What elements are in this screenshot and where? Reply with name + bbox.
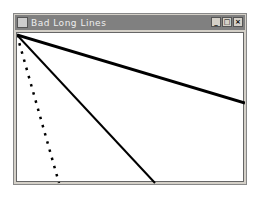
maximize-button[interactable]: □ <box>222 17 232 27</box>
lines-drawing <box>17 33 245 184</box>
drawing-canvas[interactable] <box>16 32 244 182</box>
app-icon[interactable] <box>17 17 28 28</box>
minimize-button[interactable]: _ <box>211 17 221 27</box>
close-button[interactable]: × <box>233 17 243 27</box>
app-window: Bad Long Lines _ □ × <box>13 13 247 185</box>
title-bar[interactable]: Bad Long Lines _ □ × <box>15 15 245 30</box>
window-title: Bad Long Lines <box>31 18 106 28</box>
